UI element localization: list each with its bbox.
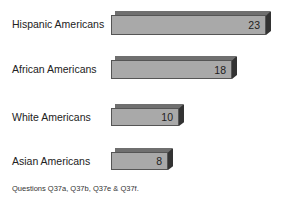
category-label: African Americans (12, 63, 97, 75)
bar-value: 23 (248, 19, 260, 31)
bar-value: 8 (156, 155, 162, 167)
bar-front: 23 (111, 15, 266, 35)
footnote: Questions Q37a, Q37b, Q37e & Q37f. (12, 184, 139, 193)
bar-front: 18 (111, 60, 232, 79)
category-label: Hispanic Americans (12, 18, 104, 30)
bar-front: 8 (111, 152, 168, 170)
category-label: White Americans (12, 111, 91, 123)
bar-african: 18 (111, 56, 237, 80)
bar-value: 10 (161, 111, 173, 123)
bar-hispanic: 23 (111, 11, 271, 36)
bar-asian: 8 (111, 148, 173, 171)
bar-value: 18 (214, 64, 226, 76)
category-label: Asian Americans (12, 155, 90, 167)
bar-front: 10 (111, 108, 179, 126)
bar-white: 10 (111, 104, 184, 127)
